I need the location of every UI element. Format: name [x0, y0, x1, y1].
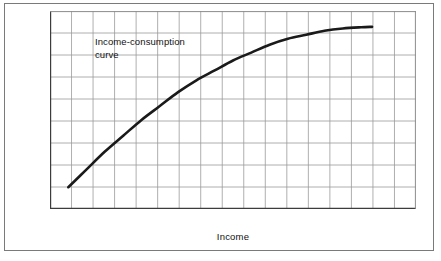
plot-area: Income-consumption curve — [50, 11, 416, 209]
x-axis-label: Income — [50, 231, 416, 242]
curve-annotation-line-1: Income-consumption — [95, 36, 185, 49]
curve-annotation: Income-consumption curve — [95, 36, 185, 61]
curve-annotation-line-2: curve — [95, 49, 185, 62]
figure-root: Income-consumption curve Quantity of Mea… — [0, 0, 441, 261]
